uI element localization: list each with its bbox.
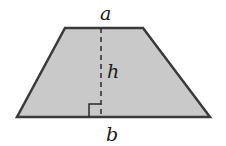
trapezoid-diagram: a h b <box>0 0 226 146</box>
label-top-base: a <box>100 2 111 24</box>
label-height: h <box>107 60 119 82</box>
label-bottom-base: b <box>106 123 118 145</box>
